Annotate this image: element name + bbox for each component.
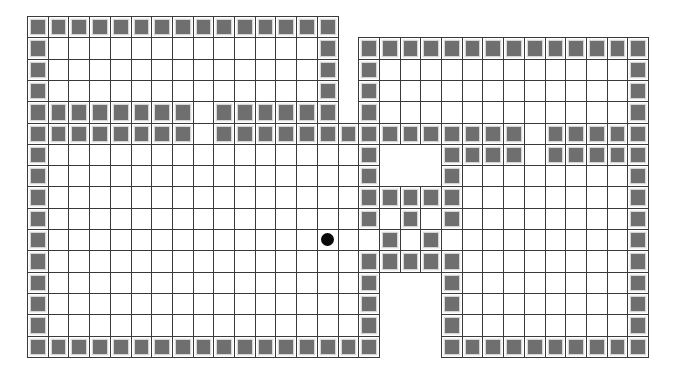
floor-cell [462, 208, 483, 230]
floor-cell [131, 37, 152, 60]
floor-cell [545, 250, 566, 273]
floor-cell [524, 59, 546, 81]
floor-cell [193, 101, 214, 124]
wall-cell [68, 336, 90, 358]
floor-cell [68, 165, 90, 187]
floor-cell [275, 144, 297, 166]
floor-cell [48, 293, 69, 315]
wall-cell [27, 208, 49, 230]
floor-cell [213, 59, 235, 81]
floor-cell [110, 314, 132, 337]
wall-cell [131, 336, 152, 358]
floor-cell [275, 208, 297, 230]
floor-cell [482, 80, 504, 102]
floor-cell [151, 293, 173, 315]
floor-cell [545, 80, 566, 102]
wall-cell [68, 101, 90, 124]
floor-cell [110, 186, 132, 209]
floor-cell [565, 59, 587, 81]
floor-cell [193, 80, 214, 102]
wall-cell [27, 144, 49, 166]
floor-cell [565, 186, 587, 209]
floor-cell [234, 59, 256, 81]
floor-cell [48, 144, 69, 166]
wall-cell [586, 123, 608, 145]
floor-cell [234, 293, 256, 315]
wall-cell [441, 336, 463, 358]
wall-cell [441, 165, 463, 187]
wall-cell [379, 186, 401, 209]
wall-cell [462, 144, 483, 166]
wall-cell [275, 16, 297, 38]
floor-cell [68, 59, 90, 81]
floor-cell [89, 37, 111, 60]
wall-cell [110, 336, 132, 358]
floor-cell [89, 208, 111, 230]
wall-cell [420, 250, 442, 273]
floor-cell [193, 229, 214, 251]
wall-cell [545, 37, 566, 60]
floor-cell [89, 186, 111, 209]
floor-cell [441, 80, 463, 102]
floor-cell [462, 272, 483, 294]
floor-cell [565, 208, 587, 230]
wall-cell [503, 123, 525, 145]
floor-cell [462, 250, 483, 273]
floor-cell [317, 165, 339, 187]
wall-cell [172, 336, 194, 358]
floor-cell [503, 101, 525, 124]
floor-cell [607, 59, 628, 81]
wall-cell [441, 186, 463, 209]
wall-cell [296, 336, 318, 358]
wall-cell [607, 37, 628, 60]
floor-cell [172, 80, 194, 102]
floor-cell [131, 250, 152, 273]
floor-cell [151, 229, 173, 251]
wall-cell [565, 144, 587, 166]
floor-cell [193, 123, 214, 145]
wall-cell [379, 123, 401, 145]
floor-cell [296, 229, 318, 251]
floor-cell [234, 80, 256, 102]
floor-cell [296, 80, 318, 102]
floor-cell [379, 59, 401, 81]
wall-cell [27, 314, 49, 337]
floor-cell [607, 229, 628, 251]
wall-cell [441, 144, 463, 166]
floor-cell [275, 59, 297, 81]
wall-cell [48, 16, 69, 38]
wall-cell [213, 101, 235, 124]
wall-cell [482, 123, 504, 145]
wall-cell [400, 208, 421, 230]
wall-cell [338, 123, 359, 145]
floor-cell [234, 250, 256, 273]
floor-cell [482, 165, 504, 187]
wall-cell [379, 250, 401, 273]
floor-cell [586, 165, 608, 187]
wall-cell [151, 101, 173, 124]
floor-cell [255, 208, 276, 230]
wall-cell [172, 123, 194, 145]
wall-cell [358, 250, 380, 273]
wall-cell [627, 208, 649, 230]
floor-cell [255, 250, 276, 273]
wall-cell [213, 123, 235, 145]
wall-cell [255, 16, 276, 38]
floor-cell [68, 37, 90, 60]
floor-cell [193, 37, 214, 60]
wall-cell [27, 59, 49, 81]
wall-cell [358, 165, 380, 187]
floor-cell [234, 314, 256, 337]
floor-cell [503, 293, 525, 315]
floor-cell [545, 208, 566, 230]
floor-cell [234, 165, 256, 187]
wall-cell [151, 16, 173, 38]
wall-cell [234, 16, 256, 38]
floor-cell [338, 229, 359, 251]
wall-cell [296, 123, 318, 145]
wall-cell [131, 123, 152, 145]
wall-cell [441, 208, 463, 230]
floor-cell [607, 272, 628, 294]
wall-cell [89, 101, 111, 124]
floor-cell [48, 272, 69, 294]
